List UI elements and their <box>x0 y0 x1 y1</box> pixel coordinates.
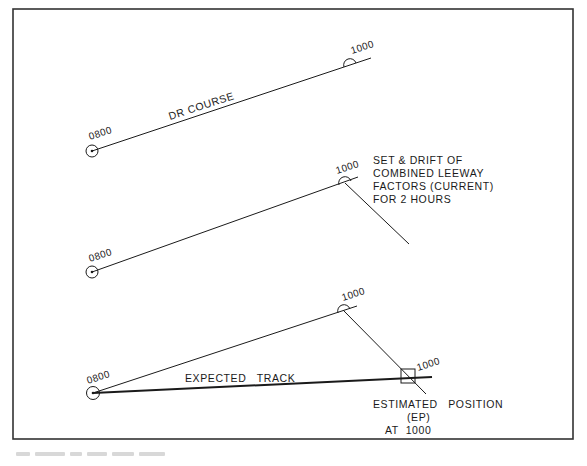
expected-track-label: EXPECTED TRACK <box>185 372 295 384</box>
set-drift-note-line-2: COMBINED LEEWAY <box>373 167 484 179</box>
dr-end-time-label: 1000 <box>340 285 366 303</box>
dead-reckoning-diagram: 0800 1000 DR COURSE 0800 1000 SET & DRIF… <box>0 0 587 466</box>
end-time-label: 1000 <box>334 158 360 176</box>
ep-note-line-3: AT 1000 <box>385 424 431 436</box>
end-time-label: 1000 <box>349 38 375 56</box>
start-time-label: 0800 <box>87 124 113 142</box>
panel-expected-track: 0800 1000 1000 EXPECTED TRACK ESTIMATED … <box>85 285 503 436</box>
panel-set-and-drift: 0800 1000 SET & DRIFT OF COMBINED LEEWAY… <box>86 154 494 278</box>
ep-note-line-1: ESTIMATED POSITION <box>373 398 503 410</box>
ep-time-label: 1000 <box>415 355 441 373</box>
figure-caption-marks <box>16 452 196 458</box>
start-time-label: 0800 <box>87 246 113 264</box>
set-drift-note-line-4: FOR 2 HOURS <box>373 193 451 205</box>
dr-course-line <box>92 58 371 151</box>
ep-note-line-2: (EP) <box>407 411 430 423</box>
dr-semicircle-icon <box>344 59 356 67</box>
start-time-label: 0800 <box>85 368 111 386</box>
set-drift-note-line-3: FACTORS (CURRENT) <box>373 180 494 192</box>
course-label: DR COURSE <box>167 89 236 122</box>
set-drift-note-line-1: SET & DRIFT OF <box>373 154 463 166</box>
dr-course-line <box>92 177 358 272</box>
panel-dr-course: 0800 1000 DR COURSE <box>86 38 375 157</box>
